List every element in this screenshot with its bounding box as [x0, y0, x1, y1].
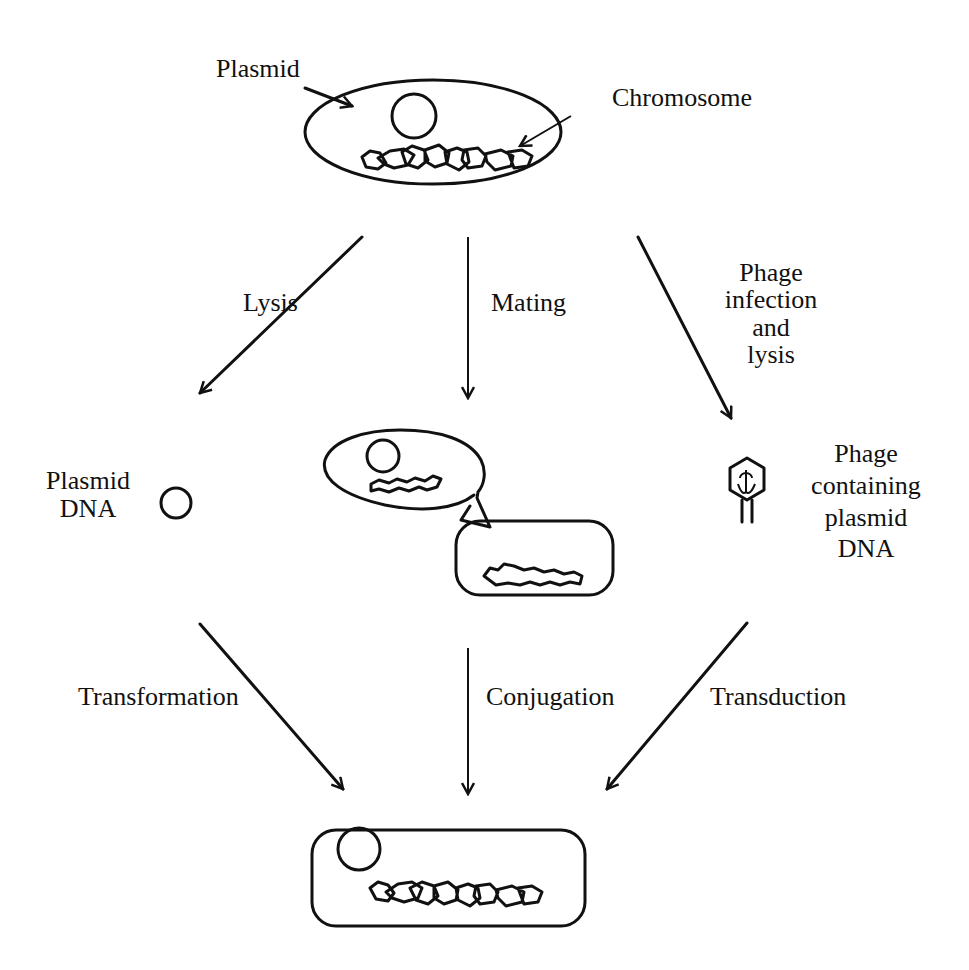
cell-envelope — [305, 80, 561, 184]
chromosome-label: Chromosome — [612, 83, 752, 112]
svg-text:Phage: Phage — [834, 439, 898, 468]
svg-text:infection: infection — [725, 285, 817, 314]
donor-cell-with-pilus — [324, 430, 490, 527]
plasmid-dna-label: Plasmid DNA — [46, 466, 130, 523]
final-plasmid — [338, 828, 380, 870]
phage-icon — [730, 458, 764, 522]
phage-infection-label: Phage infection and lysis — [725, 258, 817, 369]
plasmid-circle — [392, 94, 436, 138]
svg-text:plasmid: plasmid — [825, 503, 907, 532]
phage-infection-arrow — [638, 237, 731, 418]
svg-text:and: and — [752, 313, 790, 342]
lysis-label: Lysis — [243, 288, 298, 317]
mating-donor-dna — [371, 476, 441, 492]
transformation-label: Transformation — [78, 682, 239, 711]
svg-text:Plasmid: Plasmid — [46, 466, 130, 495]
svg-text:DNA: DNA — [60, 494, 117, 523]
recipient-cell-final — [312, 828, 585, 926]
transduction-label: Transduction — [710, 682, 846, 711]
plasmid-label: Plasmid — [216, 54, 300, 83]
mating-plasmid — [367, 440, 399, 472]
free-plasmid-dna — [161, 488, 191, 518]
svg-text:DNA: DNA — [838, 534, 895, 563]
final-chromosome-dna — [370, 882, 542, 906]
mating-recipient-dna — [484, 564, 582, 585]
donor-cell — [305, 80, 561, 184]
phage-containing-plasmid-label: Phage containing plasmid DNA — [811, 439, 921, 563]
chromosome-pointer-arrow — [520, 116, 571, 146]
mating-cells — [324, 430, 613, 595]
phage-dna — [738, 470, 755, 493]
svg-text:containing: containing — [811, 471, 921, 500]
mating-label: Mating — [491, 288, 566, 317]
svg-text:lysis: lysis — [747, 340, 795, 369]
conjugation-label: Conjugation — [486, 682, 615, 711]
final-cell-envelope — [312, 830, 585, 926]
svg-text:Phage: Phage — [739, 258, 803, 287]
plasmid-transfer-diagram: Plasmid Chromosome Lysis Mating Phage in… — [0, 0, 969, 970]
chromosome-dna — [362, 145, 532, 170]
